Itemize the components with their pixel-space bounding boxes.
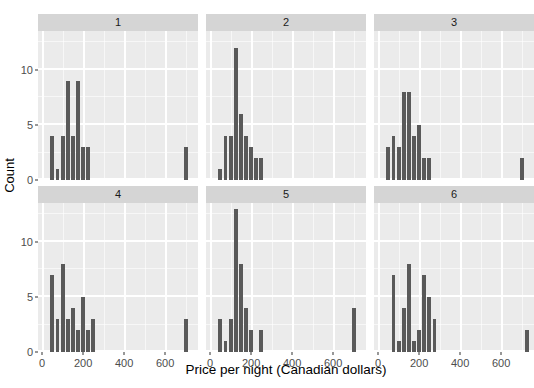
x-axis-tick-mark: [501, 352, 502, 355]
x-axis-tick-mark: [83, 352, 84, 355]
histogram-bar: [397, 147, 401, 180]
x-axis-tick-mark: [378, 352, 379, 355]
y-axis-tick-label: 5: [27, 291, 33, 303]
histogram-bar: [239, 264, 243, 352]
histogram-bar: [407, 92, 411, 180]
histogram-bar: [427, 158, 431, 180]
facet-panel-3: 3: [374, 14, 534, 180]
gridline-major-vertical: [210, 31, 212, 180]
gridline-major-vertical: [124, 203, 126, 352]
gridline-major-vertical: [378, 31, 380, 180]
plot-area-5: [206, 203, 366, 352]
histogram-bar: [76, 81, 80, 180]
histogram-bar: [66, 81, 70, 180]
gridline-major-horizontal: [374, 123, 534, 125]
histogram-bar: [81, 147, 85, 180]
gridline-minor-vertical: [272, 31, 273, 180]
histogram-bar: [218, 169, 222, 180]
gridline-major-vertical: [42, 203, 44, 352]
x-axis-ticklabels-col-1: 0200400600: [206, 352, 366, 372]
facet-strip-4: 4: [38, 186, 198, 203]
x-axis-tick-mark: [292, 352, 293, 355]
gridline-major-horizontal: [374, 240, 534, 242]
gridline-major-vertical: [124, 31, 126, 180]
facet-strip-1: 1: [38, 14, 198, 31]
facet-row: 456: [38, 186, 534, 352]
gridline-major-horizontal: [206, 295, 366, 297]
facet-panel-2: 2: [206, 14, 366, 180]
histogram-bar: [412, 136, 416, 180]
facet-strip-5: 5: [206, 186, 366, 203]
gridline-major-horizontal: [38, 123, 198, 125]
gridline-minor-vertical: [354, 31, 355, 180]
histogram-bar: [224, 136, 228, 180]
histogram-bar: [244, 308, 248, 352]
gridline-major-vertical: [460, 203, 462, 352]
facet-row: 123: [38, 14, 534, 180]
histogram-bar: [433, 319, 437, 352]
facet-panel-5: 5: [206, 186, 366, 352]
facet-strip-3: 3: [374, 14, 534, 31]
y-axis-tick-label: 0: [27, 174, 33, 186]
x-axis-tick-mark: [42, 352, 43, 355]
plot-area-6: [374, 203, 534, 352]
facet-strip-label: 4: [115, 189, 121, 200]
x-axis-tick-label: 200: [74, 357, 92, 369]
y-axis-tick-mark: [35, 296, 38, 297]
histogram-bar: [218, 319, 222, 352]
plot-area-4: [38, 203, 198, 352]
histogram-bar: [407, 264, 411, 352]
facet-strip-label: 6: [451, 189, 457, 200]
x-axis-tick-mark: [460, 352, 461, 355]
histogram-bar: [392, 136, 396, 180]
histogram-bar: [50, 275, 54, 352]
x-axis-tick-label: 600: [156, 357, 174, 369]
histogram-bar: [412, 341, 416, 352]
gridline-major-vertical: [333, 203, 335, 352]
x-axis-tick-label: 0: [375, 357, 381, 369]
gridline-major-vertical: [501, 203, 503, 352]
gridline-major-horizontal: [206, 123, 366, 125]
x-axis-tick-label: 600: [324, 357, 342, 369]
histogram-bar: [234, 209, 238, 352]
histogram-bar: [422, 275, 426, 352]
gridline-minor-vertical: [399, 203, 400, 352]
histogram-bar: [254, 158, 258, 180]
histogram-bar: [239, 114, 243, 180]
plot-area-3: [374, 31, 534, 180]
y-axis-tick-mark: [35, 124, 38, 125]
x-axis-tick-mark: [251, 352, 252, 355]
histogram-bar: [50, 136, 54, 180]
y-axis-tick-label: 10: [21, 64, 33, 76]
histogram-bar: [352, 308, 356, 352]
facet-strip-2: 2: [206, 14, 366, 31]
x-axis-tick-mark: [333, 352, 334, 355]
histogram-bar: [259, 330, 263, 352]
histogram-bar: [397, 341, 401, 352]
histogram-bar: [184, 319, 188, 352]
histogram-bar: [71, 308, 75, 352]
x-axis-tick-mark: [210, 352, 211, 355]
histogram-bar: [61, 264, 65, 352]
gridline-minor-vertical: [145, 31, 146, 180]
y-axis-ticklabels-row-0: 0510: [4, 31, 38, 180]
x-axis-tick-mark: [419, 352, 420, 355]
x-axis-tick-label: 400: [283, 357, 301, 369]
gridline-major-horizontal: [374, 68, 534, 70]
histogram-bar: [86, 147, 90, 180]
plot-area-2: [206, 31, 366, 180]
histogram-bar: [71, 136, 75, 180]
histogram-bar: [81, 297, 85, 352]
facet-panel-6: 6: [374, 186, 534, 352]
gridline-major-vertical: [292, 31, 294, 180]
histogram-bar: [402, 308, 406, 352]
x-axis-tick-label: 0: [39, 357, 45, 369]
histogram-bar: [249, 330, 253, 352]
x-axis-ticklabels-col-0: 0200400600: [38, 352, 198, 372]
gridline-major-vertical: [165, 31, 167, 180]
gridline-major-vertical: [378, 203, 380, 352]
histogram-bar: [91, 319, 95, 352]
histogram-bar: [61, 136, 65, 180]
histogram-bar: [422, 158, 426, 180]
x-axis-tick-label: 0: [207, 357, 213, 369]
